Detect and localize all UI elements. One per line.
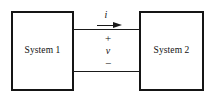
system-2-block: System 2 [139,11,204,91]
current-direction-arrow-icon [97,21,122,29]
polarity-minus-label: − [99,58,117,69]
figure-canvas: System 1 System 2 i + v − [0,0,213,98]
bottom-wire [73,71,140,72]
arrow-head [113,22,122,28]
system-1-block: System 1 [11,11,74,91]
polarity-plus-label: + [99,33,117,44]
current-label: i [99,10,113,20]
system-1-label: System 1 [25,46,61,56]
voltage-label: v [99,46,117,56]
top-wire [73,29,140,30]
system-2-label: System 2 [154,46,190,56]
